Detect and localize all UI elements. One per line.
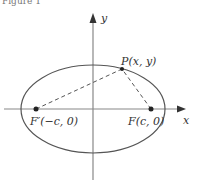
figure-caption: Figure 1 [2, 0, 41, 6]
focus-f-label: F(c, 0) [127, 115, 164, 128]
focal-line-f [122, 69, 151, 109]
focus-f-prime-point [34, 107, 39, 112]
ellipse-diagram: Figure 1 y x P(x, y) F(c, 0) F′(−c, 0) [0, 0, 199, 185]
x-axis-arrow-icon [177, 106, 186, 113]
y-axis-label: y [100, 12, 108, 25]
x-axis-label: x [183, 114, 190, 127]
focus-f-point [149, 107, 154, 112]
y-axis-arrow-icon [90, 13, 97, 23]
focal-line-f-prime [36, 69, 122, 109]
point-p-label: P(x, y) [120, 55, 156, 68]
focus-f-prime-label: F′(−c, 0) [29, 115, 78, 128]
